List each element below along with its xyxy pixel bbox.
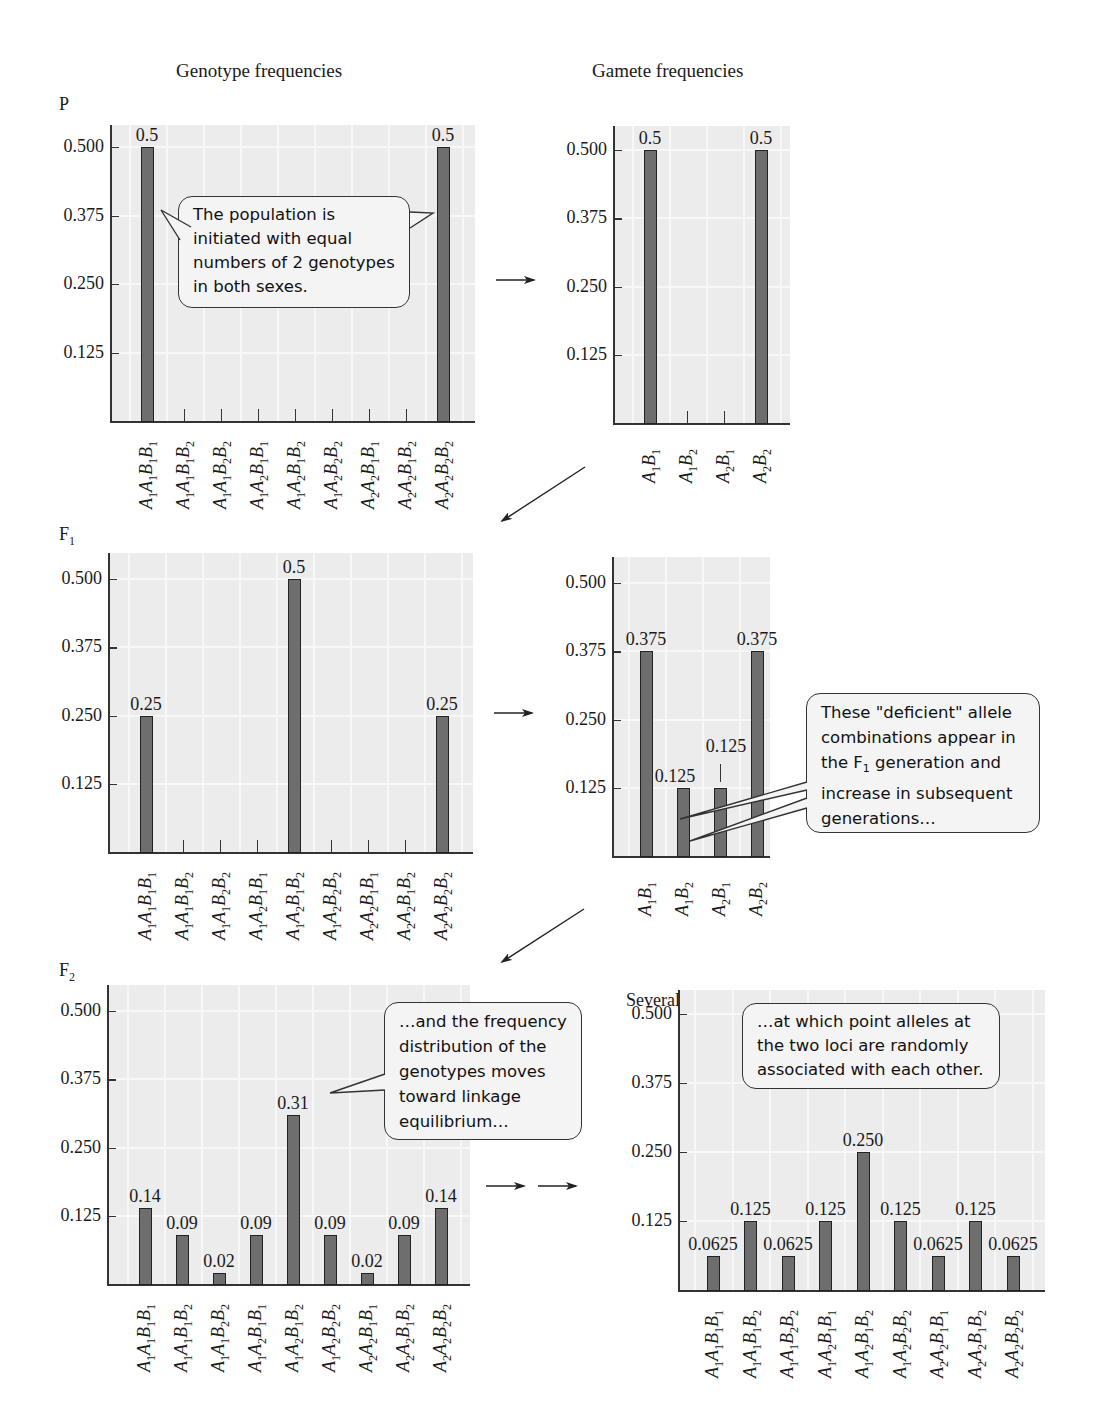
allele-index: 2: [220, 458, 234, 464]
allele-index: 1: [645, 899, 659, 905]
allele-index: 1: [257, 492, 271, 498]
bar-value-label: 0.250: [828, 1130, 898, 1151]
bar: [398, 1235, 411, 1285]
allele-letter: B: [282, 1310, 302, 1321]
y-tick: [108, 579, 117, 580]
x-category-label: A1A2B1B1: [815, 1310, 840, 1378]
callout-f1-line4: increase in subsequent: [821, 781, 1025, 806]
y-tick: [110, 284, 119, 285]
bar: [437, 147, 450, 422]
allele-index: 2: [182, 872, 196, 878]
allele-index: 1: [749, 1327, 763, 1333]
allele-index: 2: [329, 1321, 343, 1327]
allele-index: 1: [824, 1361, 838, 1367]
x-tick: [405, 840, 406, 852]
allele-index: 2: [368, 492, 382, 498]
allele-index: 2: [220, 441, 234, 447]
allele-index: 1: [367, 889, 381, 895]
allele-index: 1: [183, 492, 197, 498]
y-tick: [612, 788, 621, 789]
allele-letter: B: [173, 447, 193, 458]
allele-index: 2: [331, 441, 345, 447]
bar-value-label: 0.5: [615, 128, 685, 149]
x-category-label: A2A2B2B2: [1002, 1310, 1027, 1378]
allele-index: 1: [749, 1344, 763, 1350]
allele-index: 2: [181, 1304, 195, 1310]
allele-index: 2: [441, 906, 455, 912]
callout-f2: …and the frequency distribution of the g…: [384, 1002, 582, 1140]
allele-letter: A: [245, 1344, 265, 1355]
bar: [140, 716, 153, 854]
bar: [932, 1256, 945, 1292]
allele-index: 2: [442, 475, 456, 481]
allele-letter: A: [321, 498, 341, 509]
allele-index: 2: [442, 492, 456, 498]
bar-value-label: 0.5: [726, 128, 796, 149]
y-tick-label: 0.375: [41, 1068, 101, 1089]
x-category-label: A1A2B1B2: [282, 1304, 307, 1372]
allele-letter: B: [283, 878, 303, 889]
allele-index: 2: [367, 923, 381, 929]
allele-index: 1: [329, 1355, 343, 1361]
allele-letter: B: [358, 447, 378, 458]
allele-letter: A: [746, 905, 766, 916]
allele-letter: B: [210, 447, 230, 458]
allele-letter: A: [136, 498, 156, 509]
allele-letter: B: [393, 1310, 413, 1321]
allele-letter: B: [319, 1310, 339, 1321]
allele-letter: A: [284, 498, 304, 509]
y-tick-label: 0.500: [612, 1003, 672, 1024]
y-tick: [678, 1014, 687, 1015]
bar: [755, 150, 768, 424]
grid-line: [166, 125, 168, 421]
allele-letter: B: [135, 878, 155, 889]
allele-letter: A: [852, 1367, 872, 1378]
bar-value-label: 0.5: [259, 557, 329, 578]
y-tick-label: 0.250: [42, 705, 102, 726]
allele-letter: A: [702, 1350, 722, 1361]
bar-value-label: 0.125: [866, 1199, 936, 1220]
allele-index: 1: [937, 1327, 951, 1333]
allele-index: 2: [330, 906, 344, 912]
x-category-label: A1A1B1B2: [171, 1304, 196, 1372]
x-tick: [724, 411, 725, 423]
allele-letter: A: [283, 912, 303, 923]
allele-letter: A: [172, 912, 192, 923]
bar: [819, 1221, 832, 1291]
allele-index: 2: [219, 872, 233, 878]
allele-index: 1: [366, 1304, 380, 1310]
x-category-label: A2A2B1B2: [394, 872, 419, 940]
gamete-frequencies-heading: Gamete frequencies: [592, 60, 743, 82]
allele-index: 2: [441, 872, 455, 878]
allele-letter: B: [134, 1327, 154, 1338]
allele-letter: B: [432, 447, 452, 458]
grid-line: [632, 126, 634, 423]
bar-value-label: 0.5: [112, 125, 182, 146]
generation-label-p: P: [59, 94, 69, 115]
allele-index: 2: [686, 449, 700, 455]
allele-letter: A: [815, 1350, 835, 1361]
bar: [250, 1235, 263, 1285]
y-tick-label: 0.125: [42, 773, 102, 794]
allele-index: 1: [645, 882, 659, 888]
allele-index: 2: [294, 475, 308, 481]
grid-line: [164, 985, 166, 1284]
allele-index: 2: [367, 906, 381, 912]
allele-letter: B: [927, 1333, 947, 1344]
x-category-label: A1A1B2B2: [777, 1310, 802, 1378]
allele-index: 1: [712, 1310, 726, 1316]
allele-letter: B: [395, 447, 415, 458]
bar: [436, 716, 449, 854]
allele-index: 2: [974, 1310, 988, 1316]
allele-letter: A: [319, 1344, 339, 1355]
y-tick-label: 0.125: [547, 344, 607, 365]
allele-index: 1: [712, 1361, 726, 1367]
allele-letter: B: [431, 878, 451, 889]
allele-letter: A: [965, 1367, 985, 1378]
allele-index: 1: [145, 889, 159, 895]
y-tick: [107, 1011, 116, 1012]
allele-letter: B: [635, 888, 655, 899]
label-leader-line: [720, 764, 721, 782]
allele-index: 2: [862, 1344, 876, 1350]
allele-letter: A: [395, 498, 415, 509]
